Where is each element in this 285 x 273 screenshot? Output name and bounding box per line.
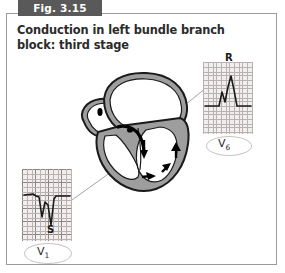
wave-label-s: S — [47, 224, 54, 235]
figure-banner: Fig. 3.15 — [18, 0, 102, 16]
figure-page: Fig. 3.15 Conduction in left bundle bran… — [0, 0, 285, 273]
ecg-grid-v6 — [203, 62, 253, 134]
lead-label-v1-letter: V — [37, 245, 45, 258]
ecg-trace-v6 — [203, 62, 253, 134]
wave-label-r: R — [225, 52, 233, 63]
figure-title: Conduction in left bundle branch block: … — [17, 23, 259, 52]
lead-label-v1: V1 — [37, 245, 49, 260]
sinoatrial-node-icon — [97, 108, 102, 116]
lead-label-v1-subscript: 1 — [45, 251, 50, 260]
lead-label-v6-subscript: 6 — [226, 143, 231, 152]
lead-label-v6: V6 — [218, 137, 230, 152]
ecg-panel-v1: S — [22, 169, 72, 241]
heart-cross-section — [80, 70, 200, 195]
lv-apex-arrow-shaft — [142, 176, 150, 177]
lead-label-v6-letter: V — [218, 137, 226, 150]
ecg-panel-v6: R — [203, 62, 253, 134]
figure-banner-label: Fig. 3.15 — [18, 0, 102, 16]
